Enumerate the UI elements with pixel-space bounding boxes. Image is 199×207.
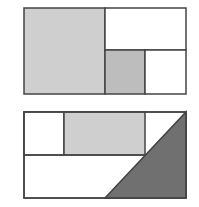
bottom-left-white-rect <box>24 112 64 155</box>
bottom-shaded-rect <box>64 112 145 155</box>
bottom-figure <box>24 112 186 198</box>
top-small-shaded-square <box>105 50 145 94</box>
top-small-white-rect <box>145 50 186 94</box>
top-figure <box>24 8 186 94</box>
top-right-white-rect <box>105 8 186 50</box>
diagram-canvas <box>0 0 199 207</box>
top-large-shaded-square <box>24 8 105 94</box>
